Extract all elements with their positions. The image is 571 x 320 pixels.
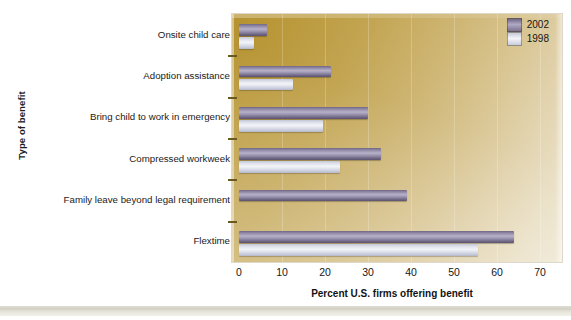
y-axis-tick — [228, 179, 237, 181]
x-axis-tick-label: 70 — [534, 266, 546, 278]
gridline — [368, 14, 369, 262]
gridline — [497, 14, 498, 262]
x-axis-tick-label: 50 — [448, 266, 460, 278]
bar — [239, 231, 514, 243]
footer-strip — [0, 308, 571, 316]
x-axis-title: Percent U.S. firms offering benefit — [232, 288, 552, 299]
legend-label: 2002 — [527, 19, 549, 31]
x-axis-tick-labels: 010203040506070 — [232, 266, 571, 282]
bar — [239, 120, 323, 132]
y-axis-tick — [228, 138, 237, 140]
legend-item: 2002 — [507, 18, 549, 31]
y-axis-tick-label: Bring child to work in emergency — [10, 111, 230, 122]
bar — [239, 79, 293, 91]
bar — [239, 244, 478, 256]
chart-legend: 20021998 — [507, 18, 549, 45]
gridline — [282, 14, 283, 262]
bar — [239, 107, 368, 119]
plot-area — [232, 14, 562, 262]
x-axis-tick-label: 10 — [276, 266, 288, 278]
x-axis-tick-label: 40 — [405, 266, 417, 278]
y-axis-tick — [228, 221, 237, 223]
y-axis-tick-labels: Onsite child careAdoption assistanceBrin… — [10, 14, 230, 262]
gridline — [454, 14, 455, 262]
bar — [239, 190, 407, 202]
y-axis-tick-label: Family leave beyond legal requirement — [10, 194, 230, 205]
x-axis-tick-label: 30 — [362, 266, 374, 278]
x-axis-tick-label: 20 — [319, 266, 331, 278]
y-axis-tick-label: Compressed workweek — [10, 153, 230, 164]
y-axis-tick-label: Adoption assistance — [10, 70, 230, 81]
x-axis-tick-label: 0 — [236, 266, 242, 278]
chart-figure: Type of benefit Onsite child careAdoptio… — [0, 0, 571, 320]
bar — [239, 66, 331, 78]
bar — [239, 161, 340, 173]
legend-item: 1998 — [507, 32, 549, 45]
gridline — [411, 14, 412, 262]
x-axis-tick-label: 60 — [491, 266, 503, 278]
y-axis-tick-label: Flextime — [10, 235, 230, 246]
legend-swatch — [507, 32, 522, 46]
legend-label: 1998 — [527, 33, 549, 45]
y-axis-tick-label: Onsite child care — [10, 29, 230, 40]
gridline — [540, 14, 541, 262]
bar — [239, 148, 381, 160]
y-axis-tick — [228, 55, 237, 57]
bar — [239, 24, 267, 36]
legend-swatch — [507, 18, 522, 32]
y-axis-tick — [228, 97, 237, 99]
gridline — [325, 14, 326, 262]
bar — [239, 37, 254, 49]
